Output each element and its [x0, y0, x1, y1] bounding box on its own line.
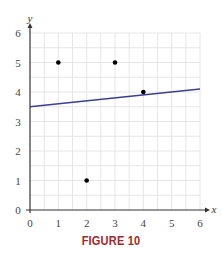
y-tick-label: 4 — [15, 86, 21, 98]
figure-caption: FIGURE 10 — [17, 233, 206, 248]
x-tick-label: 2 — [84, 217, 90, 229]
x-tick-label: 4 — [141, 217, 147, 229]
x-tick-label: 6 — [197, 217, 203, 229]
x-tick-label: 0 — [27, 217, 33, 229]
x-tick-label: 5 — [169, 217, 175, 229]
x-axis-arrow-icon — [205, 208, 210, 213]
data-point — [113, 60, 118, 65]
y-tick-label: 0 — [15, 204, 21, 216]
x-tick-label: 1 — [56, 217, 62, 229]
data-point — [56, 60, 61, 65]
x-axis-label: x — [211, 203, 217, 215]
y-tick-label: 2 — [15, 145, 21, 157]
y-tick-label: 3 — [15, 116, 21, 128]
y-tick-label: 5 — [15, 57, 21, 69]
y-tick-label: 6 — [15, 27, 21, 39]
scatter-chart: yx01234560123456 — [0, 0, 222, 230]
data-point — [84, 178, 89, 183]
y-axis-label: y — [27, 12, 33, 24]
x-tick-label: 3 — [112, 217, 118, 229]
data-point — [141, 90, 146, 95]
y-tick-label: 1 — [15, 175, 21, 187]
